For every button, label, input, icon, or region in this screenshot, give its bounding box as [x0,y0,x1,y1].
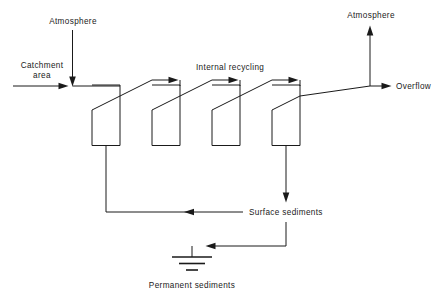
vessel-3 [212,85,240,146]
vessel-4 [272,85,300,146]
recycle-arrow-3 [240,77,300,96]
permanent-sediments-ground-symbol [172,257,212,270]
overflow-arrow [370,83,392,90]
label-overflow: Overflow [396,82,431,91]
recycle-arrow-2 [180,77,240,96]
flow-diagram-canvas: Atmosphere Catchment area Internal recyc… [0,0,444,294]
vessel-4-settling-arrow [283,146,290,203]
burial-line [192,222,286,257]
recycle-arrow-1 [120,77,180,96]
vessel-1 [92,85,120,146]
atmosphere-right-arrow [367,26,374,87]
label-permanent-sediments: Permanent sediments [149,281,235,290]
vessel-2 [152,85,180,146]
label-atmosphere-right: Atmosphere [347,11,395,20]
label-atmosphere-left: Atmosphere [49,17,97,26]
label-surface-sediments: Surface sediments [249,208,323,217]
catchment-inflow-arrow [13,83,69,90]
label-catchment-area-line2: area [33,71,51,80]
vessel-1-settling-line [106,146,243,216]
flow-diagram: Atmosphere Catchment area Internal recyc… [0,0,444,294]
label-internal-recycling: Internal recycling [196,63,264,72]
outlet-diagonal [300,86,370,96]
atmosphere-left-arrow [69,30,76,87]
label-catchment-area-line1: Catchment [21,61,64,70]
